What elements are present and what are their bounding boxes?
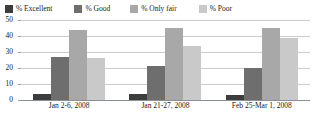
bar [69, 30, 87, 100]
bar [280, 38, 298, 100]
bar-group [21, 20, 117, 100]
legend-swatch-poor [199, 5, 207, 13]
bar [33, 94, 51, 100]
legend-swatch-excellent [5, 5, 13, 13]
y-axis: 50403020100 [0, 20, 17, 119]
bar [226, 95, 244, 100]
legend-label-good: % Good [85, 5, 110, 13]
legend-item-poor: % Poor [199, 0, 232, 18]
bar [129, 94, 147, 100]
bar-group [214, 20, 310, 100]
legend-swatch-only-fair [130, 5, 138, 13]
y-tick-label: 30 [0, 48, 17, 56]
x-tick-label: Jan 2-6, 2008 [21, 102, 117, 116]
legend-label-only-fair: % Only fair [141, 5, 176, 13]
chart-legend: % Excellent % Good % Only fair % Poor [0, 0, 313, 18]
y-tick-label: 50 [0, 16, 17, 24]
legend-swatch-good [74, 5, 82, 13]
chart-figure: % Excellent % Good % Only fair % Poor 50… [0, 0, 313, 119]
bar [147, 66, 165, 100]
bar [262, 28, 280, 100]
bar [244, 68, 262, 100]
plot-area: 50403020100 Jan 2-6, 2008Jan 21-27, 2008… [0, 20, 313, 119]
legend-label-poor: % Poor [210, 5, 232, 13]
x-tick-label: Jan 21-27, 2008 [117, 102, 213, 116]
bar [87, 58, 105, 100]
y-tick-label: 10 [0, 80, 17, 88]
y-tick-label: 20 [0, 64, 17, 72]
y-tick-mark [18, 100, 21, 101]
x-tick-label: Feb 25-Mar 1, 2008 [214, 102, 310, 116]
bar-group [117, 20, 213, 100]
legend-label-excellent: % Excellent [16, 5, 52, 13]
y-tick-label: 0 [0, 96, 17, 104]
legend-item-good: % Good [74, 0, 110, 18]
x-axis: Jan 2-6, 2008Jan 21-27, 2008Feb 25-Mar 1… [21, 102, 310, 116]
y-tick-label: 40 [0, 32, 17, 40]
legend-item-only-fair: % Only fair [130, 0, 176, 18]
bar [165, 28, 183, 100]
bar-groups [21, 20, 310, 100]
bar [183, 46, 201, 100]
bar [51, 57, 69, 100]
